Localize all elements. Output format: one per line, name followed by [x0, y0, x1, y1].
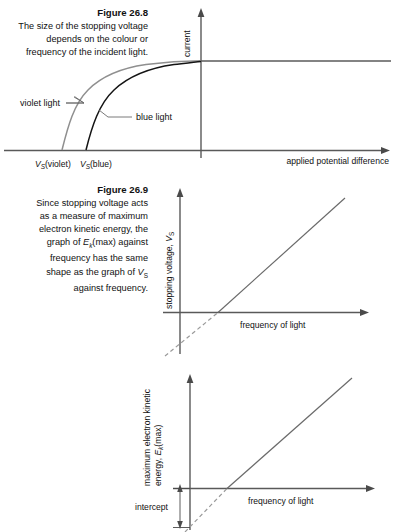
caption-line-6: shape as the graph of VS	[46, 267, 148, 277]
figure-269-top-y-axis-label: stopping voltage, VS	[164, 232, 175, 309]
figure-268-blue-label: blue light	[136, 112, 173, 122]
figure-269-bottom-trend-line	[227, 378, 352, 489]
violet-intercept-label: VS(violet)	[35, 159, 71, 170]
figure-269-bottom-intercept-label: intercept	[135, 502, 169, 512]
blue-intercept-label: VS(blue)	[80, 159, 112, 170]
figure-269-bottom-y-axis	[187, 374, 194, 530]
caption-line-4: graph of Ek(max) against	[47, 237, 148, 247]
figure-268-y-axis	[198, 8, 205, 158]
figure-269-top-dashed-extrapolation	[165, 313, 218, 357]
figure-268-blue-curve	[86, 61, 201, 150]
figure-269-bottom-x-axis	[173, 485, 375, 492]
figure-269-bottom-dashed-extrapolation	[185, 489, 227, 532]
caption-line-5: frequency has the same	[50, 253, 148, 263]
figure-269-top-x-axis-label: frequency of light	[240, 320, 306, 330]
figure-269-bottom-x-axis-label: frequency of light	[248, 496, 314, 506]
figure-268-violet-label: violet light	[20, 98, 61, 108]
figure-268-chart: violet light blue light VS(violet) VS(bl…	[0, 0, 397, 172]
figure-269-caption-text: Since stopping voltage acts as a measure…	[4, 197, 148, 295]
caption-line-1: Since stopping voltage acts	[36, 198, 148, 208]
figure-269-top-x-axis	[163, 309, 369, 316]
figure-269-bottom-y-axis-label-line2: energy, Ek(max)	[153, 425, 164, 486]
figure-269-bottom-intercept-arrow	[173, 484, 190, 529]
figure-269-top-y-axis	[177, 188, 184, 354]
figure-268-x-axis-label: applied potential difference	[286, 156, 389, 166]
figure-269-top-chart: stopping voltage, VS frequency of light	[150, 176, 397, 358]
textbook-figure-page: Figure 26.8 The size of the stopping vol…	[0, 0, 397, 532]
caption-line-7: against frequency.	[74, 283, 148, 293]
figure-269-bottom-y-axis-label-line1: maximum electron kinetic	[142, 388, 152, 486]
caption-line-2: as a measure of maximum	[40, 211, 148, 221]
caption-line-3: electron kinetic energy, the	[39, 224, 148, 234]
figure-268-violet-label-group: violet light	[20, 97, 84, 109]
figure-268-violet-curve	[62, 61, 201, 150]
figure-268-stopping-voltage-labels: VS(violet) VS(blue)	[35, 159, 112, 170]
figure-269-top-trend-line	[218, 198, 345, 313]
figure-269-bottom-chart: intercept maximum electron kinetic energ…	[130, 362, 397, 532]
figure-268-y-axis-label: current	[182, 30, 192, 57]
figure-268-blue-label-group: blue light	[99, 110, 173, 122]
figure-269-title: Figure 26.9	[4, 183, 148, 196]
figure-269-caption: Figure 26.9 Since stopping voltage acts …	[4, 183, 148, 295]
